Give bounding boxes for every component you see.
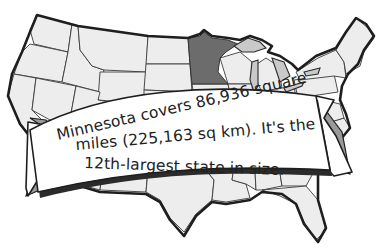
state-north-dakota xyxy=(146,36,190,64)
state-wisconsin xyxy=(220,52,254,84)
state-south-dakota xyxy=(144,64,192,92)
us-map: Minnesota covers 86,936 square miles (22… xyxy=(0,0,385,248)
map-illustration: Minnesota covers 86,936 square miles (22… xyxy=(0,0,385,248)
